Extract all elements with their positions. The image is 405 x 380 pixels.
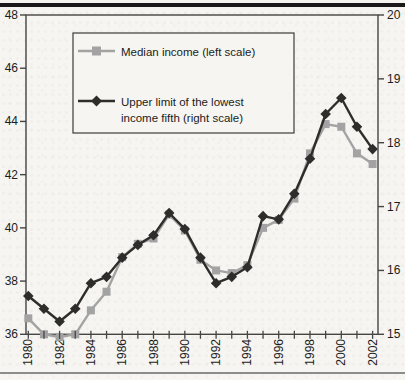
x-axis-label-1996: 1996 [272,339,286,366]
data-point-median [24,314,32,322]
legend-marker-square [92,47,101,56]
legend-entry-median-line1: Median income (left scale) [121,46,255,58]
data-point-median [337,123,345,131]
x-axis-label-1982: 1982 [53,339,67,366]
left-axis-label-42: 42 [5,168,19,182]
data-point-upper [211,278,222,289]
right-axis-label-18: 18 [387,136,401,150]
data-point-median [103,288,111,296]
x-axis-label-2000: 2000 [334,339,348,366]
x-axis-label-1988: 1988 [147,339,161,366]
right-axis-label-19: 19 [387,72,401,86]
left-axis-label-46: 46 [5,61,19,75]
left-axis-label-38: 38 [5,274,19,288]
right-axis-label-20: 20 [387,8,401,22]
x-axis-label-1990: 1990 [178,339,192,366]
data-point-upper [86,278,97,289]
x-axis-label-1984: 1984 [84,339,98,366]
x-axis-label-2002: 2002 [366,339,380,366]
left-axis-label-40: 40 [5,221,19,235]
right-axis-label-15: 15 [387,327,401,341]
x-axis-label-1986: 1986 [115,339,129,366]
legend-entry-upper-line2: income fifth (right scale) [121,112,243,124]
left-axis-label-36: 36 [5,327,19,341]
x-axis-label-1998: 1998 [303,339,317,366]
x-axis-label-1992: 1992 [209,339,223,366]
data-point-median [369,160,377,168]
x-axis-label-1994: 1994 [240,339,254,366]
data-point-median [212,266,220,274]
left-axis-label-44: 44 [5,114,19,128]
legend-entry-upper-line1: Upper limit of the lowest [121,96,245,108]
scanned-page: 4846444240383620191817161519801982198419… [0,0,405,380]
data-point-median [87,306,95,314]
data-point-median [353,149,361,157]
x-axis-label-1980: 1980 [21,339,35,366]
right-axis-label-17: 17 [387,200,401,214]
left-axis-label-48: 48 [5,8,19,22]
series-line-median [28,124,372,337]
bottom-rule [0,372,405,374]
right-axis-label-16: 16 [387,263,401,277]
data-point-upper [258,211,269,222]
income-dual-axis-chart: 4846444240383620191817161519801982198419… [0,0,405,372]
